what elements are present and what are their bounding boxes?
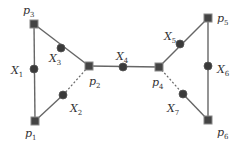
label-subscript: 4	[159, 83, 164, 91]
circle-nodes-layer	[30, 40, 212, 99]
label-X5: X5	[163, 30, 176, 45]
label-subscript: 6	[224, 133, 229, 141]
label-X4: X4	[115, 50, 129, 65]
node-X5	[176, 40, 184, 48]
node-X2	[59, 91, 67, 99]
node-X6	[204, 62, 212, 70]
label-p6: p6	[217, 126, 229, 141]
label-subscript: 2	[78, 109, 82, 117]
labels-layer: p1p2p3p4p5p6X1X2X3X4X5X6X7	[10, 4, 230, 142]
label-p1: p1	[25, 127, 37, 142]
node-p6	[204, 116, 212, 124]
node-p5	[204, 14, 212, 22]
label-base: p	[217, 126, 224, 139]
label-subscript: 1	[32, 134, 36, 142]
node-p3	[30, 20, 38, 28]
label-subscript: 3	[30, 11, 34, 19]
label-p5: p5	[217, 12, 229, 27]
node-X7	[179, 90, 187, 98]
label-subscript: 7	[175, 109, 179, 117]
label-subscript: 3	[57, 59, 61, 67]
label-X3: X3	[48, 52, 61, 67]
label-subscript: 4	[124, 57, 129, 65]
label-X7: X7	[166, 102, 179, 117]
network-diagram: p1p2p3p4p5p6X1X2X3X4X5X6X7	[0, 0, 242, 145]
label-X2: X2	[69, 102, 82, 117]
label-p3: p3	[23, 4, 35, 19]
label-base: p	[217, 12, 224, 25]
node-p2	[85, 62, 93, 70]
label-base: p	[23, 4, 30, 17]
label-X1: X1	[10, 64, 23, 79]
node-p4	[155, 63, 163, 71]
label-base: p	[152, 76, 159, 89]
label-subscript: 5	[172, 37, 176, 45]
label-p2: p2	[89, 75, 101, 90]
label-base: p	[25, 127, 32, 140]
label-subscript: 2	[96, 82, 100, 90]
node-X1	[30, 65, 38, 73]
label-p4: p4	[152, 76, 164, 91]
label-subscript: 6	[225, 70, 230, 78]
label-X6: X6	[216, 63, 230, 78]
label-subscript: 1	[19, 71, 23, 79]
label-base: p	[89, 75, 96, 88]
label-subscript: 5	[224, 19, 228, 27]
node-X3	[57, 44, 65, 52]
node-p1	[31, 117, 39, 125]
